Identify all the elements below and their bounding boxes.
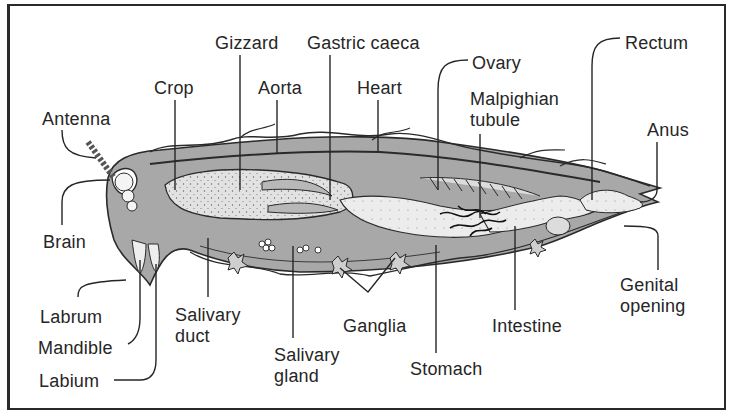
label-rectum: Rectum bbox=[625, 33, 688, 54]
label-stomach: Stomach bbox=[410, 359, 482, 380]
label-labrum: Labrum bbox=[40, 307, 102, 328]
label-mandible: Mandible bbox=[38, 338, 113, 359]
label-salivary-duct: Salivary duct bbox=[175, 305, 241, 347]
insect-anatomy-diagram: Antenna Crop Gizzard Gastric caeca Aorta… bbox=[0, 0, 731, 416]
label-intestine: Intestine bbox=[492, 316, 562, 337]
label-heart: Heart bbox=[357, 78, 402, 99]
label-brain: Brain bbox=[43, 232, 86, 253]
label-aorta: Aorta bbox=[258, 78, 302, 99]
label-crop: Crop bbox=[154, 78, 194, 99]
label-antenna: Antenna bbox=[42, 109, 110, 130]
label-labium: Labium bbox=[39, 371, 99, 392]
label-gizzard: Gizzard bbox=[215, 33, 278, 54]
genital-chamber bbox=[546, 217, 570, 235]
label-ovary: Ovary bbox=[472, 53, 521, 74]
label-anus: Anus bbox=[647, 120, 689, 141]
label-genital-opening: Genital opening bbox=[620, 275, 685, 317]
label-gastric-caeca: Gastric caeca bbox=[307, 33, 420, 54]
label-ganglia: Ganglia bbox=[343, 316, 406, 337]
label-malpighian-tubule: Malpighian tubule bbox=[470, 89, 559, 131]
antenna-segmented bbox=[88, 142, 114, 178]
label-salivary-gland: Salivary gland bbox=[274, 345, 340, 387]
